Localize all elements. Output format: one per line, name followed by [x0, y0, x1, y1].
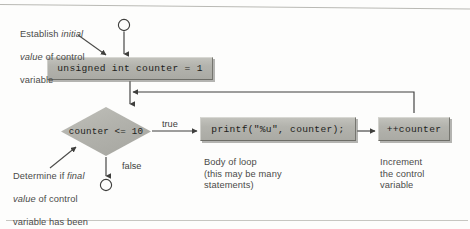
annotation-increment-caption: Increment the control variable	[380, 157, 460, 192]
page-rule-top	[0, 4, 470, 10]
determine-line1-italic: final	[67, 171, 85, 181]
establish-line2-post: of control	[43, 52, 85, 62]
determine-line2-post: of control	[36, 194, 78, 204]
annotation-determine: Determine if final value of control vari…	[13, 159, 135, 229]
loop-body-code: printf("%u", counter);	[211, 124, 344, 135]
flowchart-diagram: unsigned int counter = 1 counter <= 10 p…	[0, 0, 470, 229]
annotation-establish: Establish initial value of control varia…	[20, 17, 132, 87]
node-increment: ++counter	[378, 117, 450, 141]
establish-line3: variable	[20, 75, 53, 85]
node-condition: counter <= 10	[61, 107, 151, 156]
branch-label-true: true	[162, 119, 178, 129]
annotation-body-caption: Body of loop (this may be many statement…	[204, 157, 322, 192]
arrow-loop-back	[133, 92, 414, 113]
determine-line2-italic: value	[13, 194, 36, 204]
increment-code: ++counter	[387, 124, 442, 135]
establish-line2-italic: value	[20, 52, 43, 62]
condition-code: counter <= 10	[61, 107, 151, 156]
establish-line1-pre: Establish	[20, 29, 61, 39]
determine-line1-pre: Determine if	[13, 171, 67, 181]
establish-line1-italic: initial	[61, 29, 83, 39]
node-loop-body: printf("%u", counter);	[200, 117, 356, 141]
determine-line3: variable has been	[13, 217, 88, 227]
